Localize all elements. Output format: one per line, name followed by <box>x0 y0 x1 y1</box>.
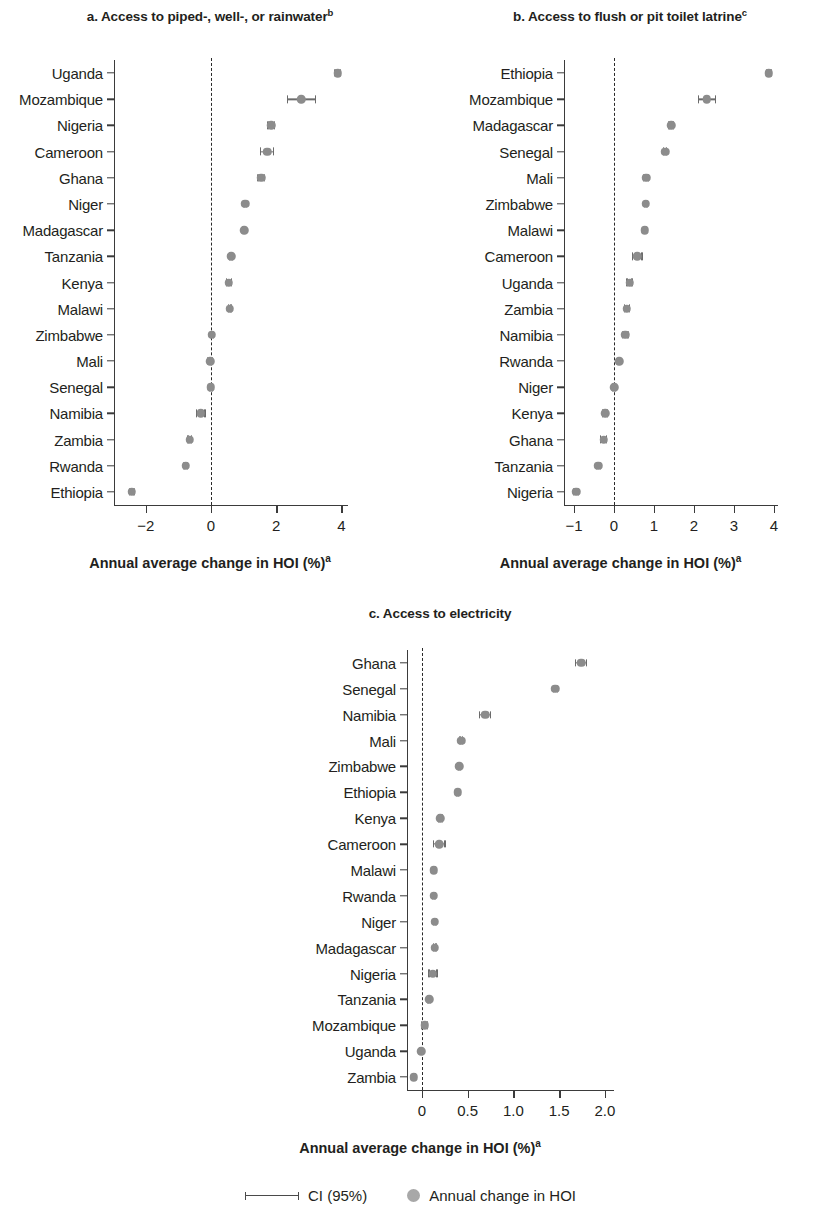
panel-c-electricity: c. Access to electricity GhanaSenegalNam… <box>180 600 660 1160</box>
category-label: Mali <box>76 353 103 370</box>
x-axis-tick <box>341 506 342 513</box>
x-axis-tick <box>146 506 147 513</box>
y-axis-tick <box>107 72 114 73</box>
y-axis-tick <box>400 714 407 715</box>
y-axis-tick <box>400 1076 407 1077</box>
y-axis-tick <box>107 99 114 100</box>
data-point-marker <box>197 409 206 418</box>
category-label: Mali <box>369 732 396 749</box>
data-point-marker <box>333 69 342 78</box>
category-label: Tanzania <box>495 457 553 474</box>
y-axis-tick <box>557 413 564 414</box>
category-label: Kenya <box>354 810 396 827</box>
data-point-marker <box>431 918 440 927</box>
category-label: Zimbabwe <box>328 758 396 775</box>
y-axis-tick <box>107 387 114 388</box>
x-axis-tick-label: 2 <box>690 517 698 534</box>
y-axis-tick <box>557 360 564 361</box>
y-axis-tick <box>557 491 564 492</box>
y-axis-tick <box>107 439 114 440</box>
x-axis-tick-label: 4 <box>770 517 778 534</box>
y-axis-tick <box>557 203 564 204</box>
panel-a-plot: UgandaMozambiqueNigeriaCameroonGhanaNige… <box>0 50 420 520</box>
annual-change-legend-icon <box>407 1189 420 1202</box>
data-point-marker <box>615 357 624 366</box>
data-point-marker <box>455 762 464 771</box>
x-axis-tick <box>468 1091 469 1098</box>
x-axis-tick-label: 0 <box>418 1102 426 1119</box>
category-label: Cameroon <box>485 248 553 265</box>
x-axis-tick <box>422 1091 423 1098</box>
data-point-marker <box>207 383 216 392</box>
y-axis-tick <box>400 921 407 922</box>
category-label: Zambia <box>347 1069 396 1086</box>
category-label: Namibia <box>499 326 553 343</box>
legend-ci-label: CI (95%) <box>308 1187 367 1204</box>
x-axis-tick-label: −2 <box>137 517 154 534</box>
legend-dot-label: Annual change in HOI <box>429 1187 576 1204</box>
y-axis-tick <box>400 1050 407 1051</box>
y-axis-tick <box>557 125 564 126</box>
x-axis-tick <box>513 1091 514 1098</box>
data-point-marker <box>225 278 234 287</box>
data-point-marker <box>240 226 249 235</box>
category-label: Nigeria <box>507 483 553 500</box>
category-label: Madagascar <box>22 222 103 239</box>
y-axis-tick <box>400 999 407 1000</box>
y-axis-tick <box>107 360 114 361</box>
x-axis-tick <box>574 506 575 513</box>
panel-b-axis-title: Annual average change in HOI (%)a <box>420 555 821 571</box>
category-label: Malawi <box>58 300 103 317</box>
data-point-marker <box>623 304 632 313</box>
data-point-marker <box>641 200 650 209</box>
y-axis-line <box>564 60 565 505</box>
panel-c-axis-title: Annual average change in HOI (%)a <box>200 1140 640 1156</box>
figure-legend: CI (95%) Annual change in HOI <box>0 1186 821 1204</box>
data-point-marker <box>263 147 272 156</box>
data-point-marker <box>633 252 642 261</box>
data-point-marker <box>594 461 603 470</box>
panel-a-title: a. Access to piped-, well-, or rainwater… <box>10 8 410 26</box>
x-axis-tick-label: 3 <box>730 517 738 534</box>
category-label: Niger <box>361 913 396 930</box>
y-axis-tick <box>400 662 407 663</box>
data-point-marker <box>601 409 610 418</box>
y-axis-tick <box>557 151 564 152</box>
x-axis-tick <box>211 506 212 513</box>
data-point-marker <box>642 174 651 183</box>
y-axis-tick <box>557 308 564 309</box>
data-point-marker <box>227 252 236 261</box>
x-axis-tick-label: 2 <box>272 517 280 534</box>
y-axis-tick <box>107 229 114 230</box>
x-axis-tick-label: 1.5 <box>549 1102 570 1119</box>
category-label: Cameroon <box>328 836 396 853</box>
x-axis-tick-label: −1 <box>565 517 582 534</box>
panel-a-piped-well-rainwater: a. Access to piped-, well-, or rainwater… <box>0 0 420 600</box>
category-label: Senegal <box>499 143 553 160</box>
category-label: Senegal <box>49 379 103 396</box>
data-point-marker <box>599 435 608 444</box>
data-point-marker <box>625 278 634 287</box>
zero-reference-line <box>614 58 615 505</box>
y-axis-tick <box>107 308 114 309</box>
data-point-marker <box>182 461 191 470</box>
category-label: Mali <box>526 169 553 186</box>
data-point-marker <box>425 995 434 1004</box>
x-axis-tick-label: 4 <box>337 517 345 534</box>
x-axis-tick <box>614 506 615 513</box>
y-axis-tick <box>400 818 407 819</box>
y-axis-tick <box>400 1025 407 1026</box>
x-axis-line <box>407 1090 614 1091</box>
data-point-marker <box>703 95 712 104</box>
y-axis-tick <box>557 334 564 335</box>
category-label: Rwanda <box>49 457 103 474</box>
y-axis-tick <box>557 72 564 73</box>
data-point-marker <box>208 331 217 340</box>
x-axis-tick <box>734 506 735 513</box>
y-axis-tick <box>557 177 564 178</box>
category-label: Ethiopia <box>343 784 396 801</box>
data-point-marker <box>297 95 306 104</box>
y-axis-tick <box>400 766 407 767</box>
y-axis-tick <box>400 895 407 896</box>
y-axis-tick <box>107 203 114 204</box>
